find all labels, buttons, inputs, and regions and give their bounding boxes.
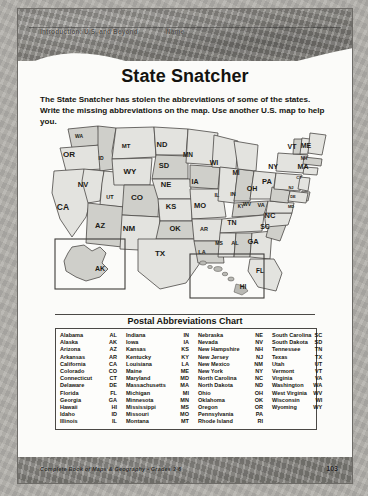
us-map: WAORIDMTNDSDWYNVUTCONEIAMNWIMICAAZNMKSMO… [42,121,332,306]
chart-row: ArizonaAZ [60,346,122,353]
map-label-co: CO [131,193,143,202]
chart-row: North DakotaND [198,382,268,389]
state-abbr: NC [252,375,263,382]
state-abbr: MD [177,375,189,382]
us-map-svg: WAORIDMTNDSDWYNVUTCONEIAMNWIMICAAZNMKSMO… [42,121,332,306]
map-label-nd: ND [157,140,168,149]
state-name: Indiana [126,332,145,339]
chart-row: HawaiiHI [60,404,122,411]
map-label-ks: KS [166,202,176,211]
state-shape-mt [112,127,156,159]
chart-row: MontanaMT [126,418,194,425]
state-name: Wisconsin [272,397,300,404]
state-name: Delaware [60,382,84,389]
map-label-ca: CA [57,202,69,212]
state-name: Colorado [60,368,84,375]
state-name: New Jersey [198,354,229,361]
page-header-band: Introduction: U.S. and Beyond Name [18,9,352,61]
chart-row: MississippiMS [126,404,194,411]
chart-row: DelawareDE [60,382,122,389]
map-label-ar: AR [200,226,208,232]
map-label-il: IL [215,192,221,198]
state-abbr: NV [252,339,263,346]
chart-row: NevadaNV [198,339,268,346]
state-name: Florida [60,390,79,397]
worksheet-sheet: Introduction: U.S. and Beyond Name State… [17,8,353,484]
footer-credit: Complete Book of Maps & Geography • Grad… [40,466,181,472]
map-label-tn: TN [227,219,236,226]
state-name: Kansas [126,346,146,353]
chart-row: New YorkNY [198,368,268,375]
state-name: Idaho [60,411,75,418]
map-label-az: AZ [95,221,105,230]
map-label-hi: HI [240,283,247,290]
chart-row: Rhode IslandRI [198,418,268,425]
chart-row: IllinoisIL [60,418,122,425]
map-label-tx: TX [155,249,166,258]
state-shape-az [86,203,124,247]
state-name: Hawaii [60,404,78,411]
state-abbr: AK [106,339,117,346]
map-label-nc: NC [265,211,276,220]
chart-row: TennesseeTN [272,346,327,353]
map-label-mt: MT [122,143,131,149]
state-name: New Mexico [198,361,230,368]
header-name-label: Name [166,28,184,35]
state-shape-ne [152,179,192,199]
chart-row: MaineME [126,368,194,375]
state-abbr: AZ [107,346,117,353]
state-abbr: RI [254,418,263,425]
state-name: Mississippi [126,404,156,411]
map-label-wi: WI [210,159,219,166]
state-abbr: MN [177,397,189,404]
state-name: Georgia [60,397,81,404]
state-abbr: MS [178,404,189,411]
state-abbr: SC [311,332,322,339]
map-label-nh: NH [301,156,308,161]
chart-title: Postal Abbreviations Chart [18,316,352,326]
chart-row: MinnesotaMN [126,397,194,404]
page-title: State Snatcher [18,66,352,87]
map-label-ga: GA [247,237,259,246]
chart-row: ColoradoCO [60,368,122,375]
chart-row: KentuckyKY [126,354,194,361]
map-label-mn: MN [183,151,193,158]
chart-row: TexasTX [272,354,327,361]
map-label-nj: NJ [288,185,293,190]
map-label-ok: OK [169,224,181,233]
state-name: Louisiana [126,361,152,368]
chart-row: MichiganMI [126,390,194,397]
state-abbr: TN [312,346,322,353]
state-name: Michigan [126,390,150,397]
state-abbr: MA [177,382,189,389]
state-name: South Dakota [272,339,308,346]
state-shape-wa [68,126,100,148]
map-label-oh: OH [247,185,258,192]
state-name: Nebraska [198,332,223,339]
state-name: Vermont [272,368,294,375]
map-label-or: OR [63,150,75,159]
map-label-ny: NY [268,163,278,170]
state-shape-sd [152,155,188,179]
map-label-mo: MO [194,201,206,210]
state-name: Virginia [272,375,292,382]
state-name: Arizona [60,346,80,353]
map-label-ne: NE [161,180,171,189]
state-abbr: MO [177,411,189,418]
state-name: Texas [272,354,287,361]
map-label-wa: WA [75,133,83,139]
map-label-md: MD [288,204,294,209]
map-label-nv: NV [78,180,88,189]
chart-column-2: IndianaINIowaIAKansasKSKentuckyKYLouisia… [122,332,194,429]
state-abbr: KY [178,354,189,361]
map-label-in: IN [230,191,236,197]
state-abbr: CT [107,375,117,382]
chart-row: AlaskaAK [60,339,122,346]
map-label-sd: SD [159,161,170,170]
map-label-ak: AK [95,265,105,272]
state-abbr: OK [252,397,263,404]
map-label-ma: MA [298,163,309,170]
map-label-de: DE [290,194,296,199]
header-wave-edge [18,45,352,61]
state-abbr: CO [106,368,117,375]
